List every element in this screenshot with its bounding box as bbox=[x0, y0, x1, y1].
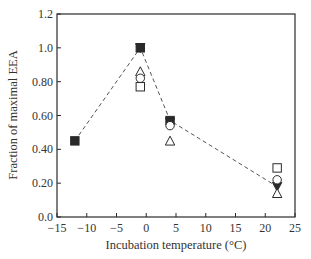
filled-square-marker bbox=[71, 137, 79, 145]
y-tick-label: 0.60 bbox=[32, 109, 53, 123]
y-tick-label: 0.0 bbox=[38, 210, 53, 224]
open-triangle-marker bbox=[165, 136, 174, 145]
y-tick-label: 0.80 bbox=[32, 75, 53, 89]
y-tick-label: 0.40 bbox=[32, 142, 53, 156]
x-tick-label: 5 bbox=[173, 221, 179, 235]
y-tick-label: 1.0 bbox=[38, 41, 53, 55]
y-tick-label: 1.2 bbox=[38, 7, 53, 21]
y-tick-label: 0.20 bbox=[32, 176, 53, 190]
x-tick-label: 25 bbox=[289, 221, 301, 235]
x-axis: −15−10−50510152025 bbox=[48, 213, 301, 235]
x-tick-label: 15 bbox=[230, 221, 242, 235]
x-tick-label: 0 bbox=[143, 221, 149, 235]
open-circle-marker bbox=[273, 176, 281, 184]
open-circle-marker bbox=[136, 74, 144, 82]
open-square-marker bbox=[273, 164, 281, 172]
open-triangle-marker bbox=[272, 189, 281, 198]
x-tick-label: −10 bbox=[77, 221, 96, 235]
x-axis-title: Incubation temperature (°C) bbox=[105, 238, 246, 252]
open-circle-marker bbox=[166, 121, 174, 129]
dashed-trend-line bbox=[75, 48, 277, 187]
y-axis-title: Fraction of maximal EEA bbox=[6, 50, 20, 179]
scatter-chart: −15−10−50510152025 0.00.200.400.600.801.… bbox=[0, 0, 311, 259]
trend-line bbox=[75, 48, 277, 187]
data-markers bbox=[71, 44, 282, 198]
open-square-marker bbox=[136, 83, 144, 91]
x-tick-label: 20 bbox=[259, 221, 271, 235]
x-tick-label: −5 bbox=[110, 221, 123, 235]
x-tick-label: 10 bbox=[200, 221, 212, 235]
